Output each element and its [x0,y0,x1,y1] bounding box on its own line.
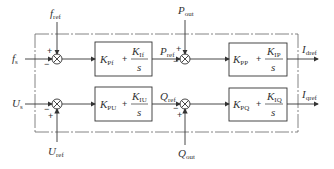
sign-plus: + [47,46,52,56]
label-qref: Qref [160,90,176,104]
sign-minus: − [173,103,178,113]
plus: + [256,54,261,64]
label-fs: fs [12,52,18,66]
block2-den: s [271,61,275,73]
sign-plus: + [176,44,181,54]
block3-ki: KIU [131,90,147,104]
label-pout: Pout [177,4,194,18]
label-fref: fref [50,7,62,21]
block1-den: s [137,61,141,73]
label-uref: Uref [48,145,64,159]
label-iqref: Iqref [301,88,318,102]
sign-minus: − [173,56,178,66]
block1-ki: KIf [131,45,145,59]
sign-minus: − [44,104,49,114]
label-idref: Idref [301,43,318,57]
plus: + [122,54,127,64]
block2-ki: KIP [266,45,281,59]
block3-den: s [137,106,141,118]
block4-ki: KIQ [266,90,282,104]
plus: + [256,99,261,109]
label-us: Us [12,97,23,111]
block4-den: s [271,106,275,118]
block1-kp: KPf [99,53,114,67]
sign-minus: − [44,59,49,69]
control-diagram: fs fref + − KPf + KIf s Pref Pout + − KP… [0,0,334,169]
plus: + [122,99,127,109]
block4-kp: KPQ [232,98,249,112]
block3-kp: KPU [99,98,116,112]
block2-kp: KPP [232,53,248,67]
label-qout: Qout [178,147,195,161]
